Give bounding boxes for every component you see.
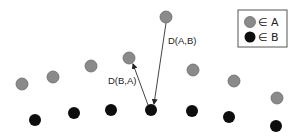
distance-diagram: D(A,B) D(B,A) ∈ A ∈ B: [0, 0, 300, 139]
distance-arrows: [133, 23, 166, 105]
set-b-point-2: [105, 104, 117, 116]
set-a-point-0: [16, 78, 28, 90]
set-b-point-6: [270, 120, 282, 132]
legend-set-b-marker-icon: [245, 32, 256, 43]
set-b-point-1: [68, 107, 80, 119]
arrow-d-ab: [154, 23, 166, 104]
legend: ∈ A ∈ B: [238, 10, 287, 47]
set-b-point-3: [145, 104, 157, 116]
set-a-point-6: [228, 75, 240, 87]
legend-set-b-label: ∈ B: [258, 31, 279, 44]
label-d-b-a: D(B,A): [108, 75, 137, 86]
legend-set-a-label: ∈ A: [258, 16, 279, 29]
set-b-point-5: [223, 111, 235, 123]
set-b-points: [29, 104, 282, 132]
set-a-point-2: [85, 60, 97, 72]
set-a-point-5: [187, 64, 199, 76]
set-b-point-4: [186, 105, 198, 117]
set-a-point-4: [160, 11, 172, 23]
set-a-point-7: [271, 92, 283, 104]
set-b-point-0: [29, 114, 41, 126]
legend-set-a-marker-icon: [245, 17, 256, 28]
set-a-point-1: [47, 71, 59, 83]
set-a-point-3: [123, 52, 135, 64]
label-d-a-b: D(A,B): [168, 35, 197, 46]
